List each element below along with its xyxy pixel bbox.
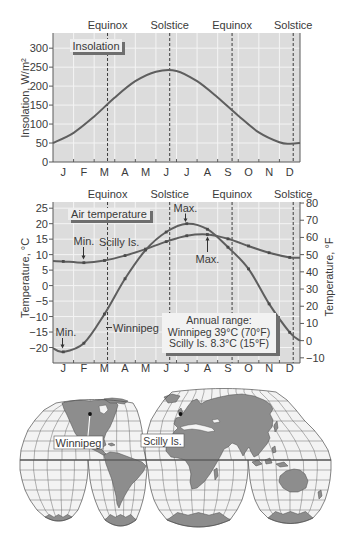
- antarctica-landmass: [167, 513, 230, 528]
- month-label: M: [141, 362, 150, 374]
- month-label: A: [204, 166, 212, 178]
- y-tick-label: 50: [36, 137, 48, 149]
- data-point-marker: [247, 245, 250, 248]
- temperature-y-ticks-fahrenheit: 80706050403020100−10: [300, 197, 325, 364]
- temperature-y-ticks-celsius: 2520151050−5−10−15−20: [29, 202, 53, 353]
- y-tick-right-label: 60: [306, 231, 318, 243]
- y-tick-right-label: 30: [306, 283, 318, 295]
- winnipeg-min-label: Min.: [56, 326, 77, 338]
- insolation-y-ticks: 050100150200250300: [30, 42, 53, 168]
- y-tick-label: 150: [30, 99, 48, 111]
- month-label: O: [244, 362, 253, 374]
- annual-range-title: Annual range:: [186, 314, 251, 326]
- month-label: J: [163, 362, 169, 374]
- event-label: Equinox: [212, 188, 252, 200]
- insolation-label-box: Insolation: [70, 39, 125, 55]
- data-point-marker: [268, 302, 271, 305]
- event-label: Solstice: [150, 19, 189, 31]
- event-label: Solstice: [274, 19, 313, 31]
- y-tick-right-label: 10: [306, 317, 318, 329]
- y-tick-label: 300: [30, 42, 48, 54]
- y-tick-label: 250: [30, 61, 48, 73]
- data-point-marker: [124, 254, 127, 257]
- y-tick-label: 20: [36, 218, 48, 230]
- y-tick-right-label: 0: [306, 335, 312, 347]
- y-tick-label: −20: [29, 342, 48, 354]
- month-label: M: [100, 362, 109, 374]
- y-tick-label: −5: [35, 295, 48, 307]
- data-point-marker: [288, 331, 291, 334]
- temperature-celsius-axis-title: Temperature, °C: [19, 238, 31, 318]
- insolation-label: Insolation: [72, 40, 119, 52]
- event-label: Equinox: [212, 19, 252, 31]
- month-label: A: [121, 166, 129, 178]
- month-label: J: [163, 166, 169, 178]
- y-tick-label: −10: [29, 311, 48, 323]
- scilly-min-label: Min.: [74, 235, 95, 247]
- month-label: N: [265, 362, 273, 374]
- month-label: S: [224, 362, 231, 374]
- antarctica-landmass: [105, 515, 136, 527]
- y-tick-label: 10: [36, 249, 48, 261]
- y-tick-label: 0: [42, 280, 48, 292]
- month-label: M: [141, 166, 150, 178]
- data-point-marker: [185, 222, 188, 225]
- insolation-chart: EquinoxSolsticeEquinoxSolstice 050100150…: [19, 19, 312, 178]
- data-point-marker: [227, 237, 230, 240]
- month-label: D: [286, 362, 294, 374]
- y-tick-label: 5: [42, 264, 48, 276]
- month-label: O: [244, 166, 253, 178]
- month-label: A: [204, 362, 212, 374]
- air-temperature-chart: EquinoxSolsticeEquinoxSolstice 252015105…: [19, 188, 335, 374]
- antarctica-landmass: [45, 515, 72, 522]
- annual-range-box: Annual range: Winnipeg 39°C (70°F) Scill…: [162, 313, 280, 356]
- data-point-marker: [185, 234, 188, 237]
- month-label: A: [121, 362, 129, 374]
- insolation-month-labels: JFMAMJJASOND: [61, 166, 294, 178]
- annual-range-scilly: Scilly Is. 8.3°C (15°F): [169, 337, 269, 349]
- y-tick-right-label: 40: [306, 266, 318, 278]
- month-label: N: [265, 166, 273, 178]
- month-label: J: [184, 166, 190, 178]
- data-point-marker: [247, 267, 250, 270]
- world-map: Winnipeg Scilly Is.: [20, 389, 331, 528]
- winnipeg-location-dot: [88, 412, 92, 416]
- temperature-fahrenheit-axis-title: Temperature, °F: [323, 237, 335, 316]
- month-label: J: [61, 166, 67, 178]
- insolation-y-axis-title: Insolation, W/m²: [19, 58, 31, 138]
- month-label: M: [100, 166, 109, 178]
- data-point-marker: [268, 251, 271, 254]
- y-tick-right-label: 20: [306, 300, 318, 312]
- scilly-map-label-text: Scilly Is.: [143, 435, 182, 447]
- y-tick-right-label: −10: [306, 352, 325, 364]
- month-label: F: [81, 166, 88, 178]
- y-tick-label: 200: [30, 80, 48, 92]
- y-tick-right-label: 50: [306, 249, 318, 261]
- month-label: F: [81, 362, 88, 374]
- event-label: Equinox: [88, 188, 128, 200]
- data-point-marker: [82, 261, 85, 264]
- y-tick-label: 25: [36, 202, 48, 214]
- data-point-marker: [288, 256, 291, 259]
- event-label: Equinox: [88, 19, 128, 31]
- data-point-marker: [206, 233, 209, 236]
- data-point-marker: [165, 231, 168, 234]
- data-point-marker: [227, 246, 230, 249]
- temperature-month-labels: JFMAMJJASOND: [61, 362, 294, 374]
- air-temperature-label-box: Air temperature: [68, 208, 153, 223]
- y-tick-label: −15: [29, 326, 48, 338]
- data-point-marker: [62, 350, 65, 353]
- data-point-marker: [144, 249, 147, 252]
- event-label: Solstice: [150, 188, 189, 200]
- y-tick-right-label: 70: [306, 214, 318, 226]
- scilly-series-label: Scilly Is.: [99, 236, 139, 248]
- data-point-marker: [124, 277, 127, 280]
- data-point-marker: [82, 342, 85, 345]
- month-label: S: [224, 166, 231, 178]
- figure: EquinoxSolsticeEquinoxSolstice 050100150…: [0, 0, 347, 544]
- winnipeg-map-label-text: Winnipeg: [56, 437, 102, 449]
- y-tick-label: 100: [30, 118, 48, 130]
- y-tick-label: 0: [42, 156, 48, 168]
- air-temperature-label: Air temperature: [71, 208, 147, 220]
- scilly-map-label: Scilly Is.: [141, 434, 184, 447]
